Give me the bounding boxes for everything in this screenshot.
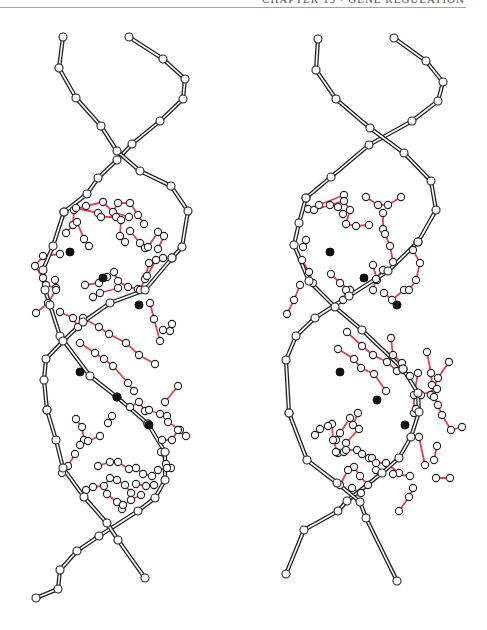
base-atom (140, 220, 147, 227)
base-atom (96, 289, 103, 296)
phosphorus-atom (384, 267, 392, 275)
backbone-strand (36, 424, 165, 598)
base-atom (114, 199, 121, 206)
base-atom (414, 369, 421, 376)
base-atom (421, 461, 428, 468)
base-atom (305, 268, 312, 275)
base-atom (143, 272, 150, 279)
base-atom (156, 410, 163, 417)
base-atom (336, 429, 343, 436)
phosphorus-atom (73, 547, 81, 555)
base-atom (168, 320, 175, 327)
phosphorus-atom (332, 95, 340, 103)
phosphorus-atom (40, 376, 48, 384)
phosphorus-atom (161, 476, 169, 484)
phosphorus-atom (314, 35, 322, 43)
phosphorus-atom (378, 469, 386, 477)
base-atom (405, 493, 412, 500)
base-atom (99, 198, 106, 205)
base-atom (389, 351, 396, 358)
base-atom (97, 213, 104, 220)
base-atom (416, 259, 423, 266)
marked-atom (113, 393, 121, 401)
base-atom (423, 348, 430, 355)
base-atom (119, 501, 126, 508)
base-atom (124, 379, 131, 386)
base-atom (340, 197, 347, 204)
phosphorus-atom (365, 141, 373, 149)
marked-atom (393, 301, 401, 309)
base-atom (135, 351, 142, 358)
base-atom (51, 276, 58, 283)
base-atom (84, 437, 91, 444)
base-atom (405, 286, 412, 293)
phosphorus-atom (161, 448, 169, 456)
base-atom (126, 199, 133, 206)
base-atom (72, 204, 79, 211)
base-atom (327, 270, 334, 277)
phosphorus-atom (295, 219, 303, 227)
base-atom (89, 293, 96, 300)
base-atom (336, 279, 343, 286)
phosphorus-atom (343, 497, 351, 505)
base-atom (342, 439, 349, 446)
base-atom (156, 337, 163, 344)
base-atom (150, 481, 157, 488)
phosphorus-atom (156, 117, 164, 125)
base-atom (127, 496, 134, 503)
base-atom (329, 436, 336, 443)
base-atom (406, 372, 413, 379)
base-atom (430, 456, 437, 463)
base-atom (348, 484, 355, 491)
base-atom (95, 323, 102, 330)
phosphorus-atom (400, 149, 408, 157)
base-atom (357, 489, 364, 496)
base-atom (298, 256, 305, 263)
base-atom (125, 465, 132, 472)
base-atom (446, 474, 453, 481)
base-atom (80, 235, 87, 242)
base-atom (121, 238, 128, 245)
base-atom (412, 276, 419, 283)
base-bond (419, 437, 425, 465)
phosphorus-atom (151, 494, 159, 502)
phosphorus-atom (395, 454, 403, 462)
base-atom (110, 268, 117, 275)
phosphorus-atom (136, 167, 144, 175)
phosphorus-atom (184, 207, 192, 215)
base-atom (334, 345, 341, 352)
base-atom (427, 369, 434, 376)
base-atom (316, 425, 323, 432)
base-atom (96, 432, 103, 439)
base-atom (343, 328, 350, 335)
base-atom (151, 360, 158, 367)
base-atom (174, 382, 181, 389)
base-atom (369, 261, 376, 268)
base-atom (105, 330, 112, 337)
base-atom (311, 431, 318, 438)
phosphorus-atom (60, 208, 68, 216)
base-atom (161, 398, 168, 405)
base-atom (386, 242, 393, 249)
phosphorus-atom (42, 355, 50, 363)
base-atom (409, 484, 416, 491)
base-atom (145, 406, 152, 413)
base-atom (137, 491, 144, 498)
phosphorus-atom (408, 117, 416, 125)
phosphorus-atom (300, 526, 308, 534)
base-atom (372, 459, 379, 466)
base-atom (117, 216, 124, 223)
base-atom (434, 401, 441, 408)
base-atom (132, 464, 139, 471)
base-atom (310, 206, 317, 213)
phosphorus-atom (113, 147, 121, 155)
base-atom (382, 459, 389, 466)
base-bond (427, 352, 432, 385)
base-atom (372, 275, 379, 282)
base-atom (126, 227, 133, 234)
phosphorus-atom (415, 408, 423, 416)
atoms (282, 34, 466, 585)
base-atom (299, 243, 306, 250)
base-atom (39, 274, 46, 281)
base-atom (114, 458, 121, 465)
